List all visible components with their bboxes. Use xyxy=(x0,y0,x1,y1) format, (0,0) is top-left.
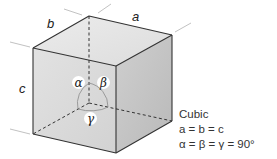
angle-label-alpha: α xyxy=(72,76,85,89)
edge-length-relation: a = b = c xyxy=(179,122,255,137)
angle-label-gamma: γ xyxy=(84,112,97,125)
angle-relation: α = β = γ = 90° xyxy=(179,137,255,152)
crystal-system-caption: Cubic a = b = c α = β = γ = 90° xyxy=(179,107,255,152)
edge-label-c: c xyxy=(19,82,26,95)
edge-label-a: a xyxy=(132,10,139,23)
angle-label-beta: β xyxy=(97,76,110,89)
crystal-system-title: Cubic xyxy=(179,107,255,122)
edge-label-b: b xyxy=(47,17,54,30)
